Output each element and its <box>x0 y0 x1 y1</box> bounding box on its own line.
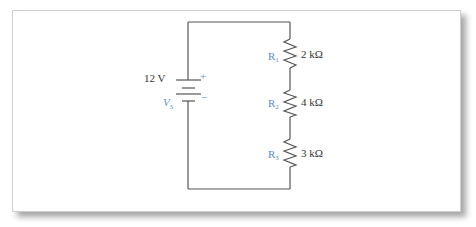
minus-terminal-sign: − <box>201 91 207 103</box>
battery-symbol <box>176 80 201 101</box>
resistor-zigzag-r2 <box>284 90 296 117</box>
source-voltage-label: 12 V <box>144 72 166 84</box>
series-circuit-diagram: 12 V + − VS R1 2 kΩ R2 4 kΩ R3 3 kΩ <box>0 0 476 227</box>
resistor-zigzag-r3 <box>284 139 296 167</box>
resistor-r2-value: 4 kΩ <box>301 96 323 108</box>
resistor-r3-value: 3 kΩ <box>301 147 323 159</box>
resistor-r1: R1 2 kΩ <box>268 39 323 68</box>
resistor-r3: R3 3 kΩ <box>268 139 323 167</box>
figure-canvas: 12 V + − VS R1 2 kΩ R2 4 kΩ R3 3 kΩ <box>0 0 476 227</box>
resistor-r2-name: R2 <box>268 97 279 111</box>
plus-terminal-sign: + <box>200 70 206 82</box>
source-name-label: VS <box>163 96 174 111</box>
resistor-r1-name: R1 <box>268 50 279 64</box>
resistor-r1-value: 2 kΩ <box>301 48 323 60</box>
resistor-r3-name: R3 <box>268 148 279 162</box>
resistor-zigzag-r1 <box>284 39 296 68</box>
resistor-r2: R2 4 kΩ <box>268 90 323 117</box>
